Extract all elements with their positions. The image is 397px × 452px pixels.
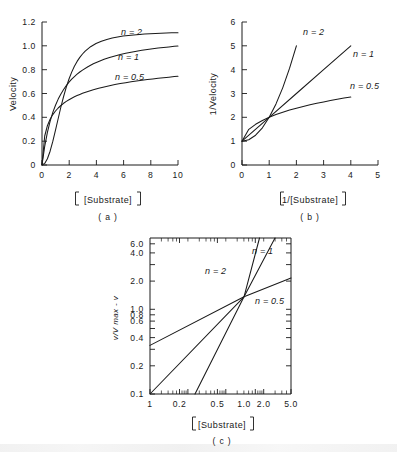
panel-a-y-axis-title: Velocity	[8, 77, 18, 111]
panel-a-ytick-4: 0.8	[22, 65, 36, 75]
panel-b-y-ticks	[242, 22, 247, 165]
panel-a-ytick-5: 1.0	[22, 41, 36, 51]
panel-c-xtick-0: 1	[147, 399, 152, 409]
panel-c-ytick-7: 0.2	[130, 361, 144, 371]
panel-a-ytick-0: 0	[31, 160, 36, 170]
panel-b-y-tick-labels: 0 1 2 3 4 5 6	[231, 17, 236, 170]
panel-b-ytick-4: 4	[231, 65, 236, 75]
panel-c-ytick-5: 0.6	[130, 316, 144, 326]
panel-c-y-axis-title: v/V max - v	[111, 295, 120, 340]
panel-c-curve-label-n05: n = 0.5	[255, 296, 285, 306]
panel-b-y-axis-title: 1/Velocity	[208, 73, 218, 116]
panel-c-ytick-8: 0.1	[130, 389, 144, 399]
panel-a-xtick-2: 4	[94, 170, 99, 180]
panel-c-xtick-2: 0.5	[211, 399, 225, 409]
panel-a-axes	[42, 22, 178, 165]
panel-c-line-n05	[150, 278, 291, 345]
panel-b-curve-n2	[242, 46, 296, 141]
page-bottom-edge-artifact	[0, 444, 397, 452]
panel-c-curve-label-n1: n = 1	[252, 246, 273, 256]
panel-a-xtick-0: 0	[39, 170, 44, 180]
panel-b-ytick-6: 6	[231, 17, 236, 27]
panel-c-ytick-1: 4.0	[130, 248, 144, 258]
panel-b-ytick-1: 1	[231, 136, 236, 146]
panel-a-ytick-6: 1.2	[22, 17, 36, 27]
panel-b-xtick-5: 5	[375, 170, 380, 180]
panel-a-xtick-1: 2	[67, 170, 72, 180]
panel-b-x-axis-title: 1/[Substrate]	[282, 195, 338, 205]
panel-a-y-tick-labels: 0 0.2 0.4 0.6 0.8 1.0 1.2	[22, 17, 36, 170]
panel-b-xtick-3: 3	[321, 170, 326, 180]
panel-c-ytick-2: 2.0	[130, 276, 144, 286]
panel-b-xtick-0: 0	[239, 170, 244, 180]
panel-b-x-axis-title-group: 1/[Substrate]	[281, 192, 346, 205]
panel-c-xtick-5: 5.0	[284, 399, 298, 409]
panel-c-x-axis-title-group: [Substrate]	[193, 417, 254, 430]
panel-b-ytick-3: 3	[231, 89, 236, 99]
panel-c-ytick-6: 0.4	[130, 333, 144, 343]
panel-c-x-tick-labels: 1 0.2 0.5 1.0 2.0 5.0	[147, 399, 298, 409]
panel-b-xtick-4: 4	[348, 170, 353, 180]
panel-b-letter: ( b )	[300, 212, 319, 222]
panel-b-curve-label-n05: n = 0.5	[350, 81, 380, 91]
panel-a-curve-label-n05: n = 0.5	[115, 72, 145, 82]
panel-b-curve-n05	[242, 97, 351, 141]
panel-b-curve-label-n1: n = 1	[353, 49, 374, 59]
panel-a-curve-n05	[42, 76, 178, 165]
panel-a-letter: ( a )	[98, 212, 117, 222]
panel-a-curve-n1	[42, 46, 178, 165]
panel-c-curve-label-n2: n = 2	[205, 266, 226, 276]
panel-b-xtick-1: 1	[267, 170, 272, 180]
panel-a-ytick-2: 0.4	[22, 112, 36, 122]
panel-a-curve-n2	[42, 33, 178, 165]
panel-c-x-ticks	[150, 238, 291, 394]
panel-c-hill-plot: 6.0 4.0 2.0 1.0 0.8 0.6 0.4 0.2 0.1 1 0.…	[74, 228, 324, 452]
panel-b-x-tick-labels: 0 1 2 3 4 5	[239, 170, 380, 180]
panel-b-axes	[242, 22, 378, 165]
panel-b-x-ticks	[242, 160, 378, 165]
panel-c-y-tick-labels: 6.0 4.0 2.0 1.0 0.8 0.6 0.4 0.2 0.1	[130, 239, 144, 399]
panel-b-ytick-2: 2	[231, 112, 236, 122]
panel-a-xtick-3: 6	[121, 170, 126, 180]
panel-c-frame	[150, 238, 291, 394]
panel-b-ytick-0: 0	[231, 160, 236, 170]
panel-a-ytick-3: 0.6	[22, 89, 36, 99]
panel-a-curve-label-n2: n = 2	[121, 27, 142, 37]
panel-a-ytick-1: 0.2	[22, 136, 36, 146]
panel-b-curve-label-n2: n = 2	[303, 27, 324, 37]
figure-enzyme-kinetics-panels: 0 0.2 0.4 0.6 0.8 1.0 1.2 0 2 4 6 8 10	[0, 0, 397, 452]
panel-c-xtick-4: 2.0	[257, 399, 271, 409]
panel-b-ytick-5: 5	[231, 41, 236, 51]
panel-a-curve-label-n1: n = 1	[118, 52, 139, 62]
panel-a-xtick-4: 8	[148, 170, 153, 180]
panel-a-velocity-vs-substrate: 0 0.2 0.4 0.6 0.8 1.0 1.2 0 2 4 6 8 10	[0, 0, 198, 230]
panel-c-xtick-3: 1.0	[237, 399, 251, 409]
panel-a-x-axis-title-group: [Substrate]	[76, 192, 141, 205]
panel-c-line-n2	[195, 238, 260, 394]
panel-a-xtick-5: 10	[173, 170, 184, 180]
panel-c-xtick-1: 0.2	[173, 399, 187, 409]
panel-a-x-axis-title: [Substrate]	[84, 195, 132, 205]
panel-b-curve-n1	[242, 46, 351, 141]
panel-c-x-axis-title: [Substrate]	[198, 420, 246, 430]
panel-a-x-ticks	[42, 160, 178, 165]
panel-b-xtick-2: 2	[294, 170, 299, 180]
panel-a-x-tick-labels: 0 2 4 6 8 10	[39, 170, 183, 180]
panel-c-line-n1	[150, 238, 275, 394]
panel-b-lineweaver-burk: 0 1 2 3 4 5 6 0 1 2 3 4 5 n = 2 n = 1	[198, 0, 397, 230]
